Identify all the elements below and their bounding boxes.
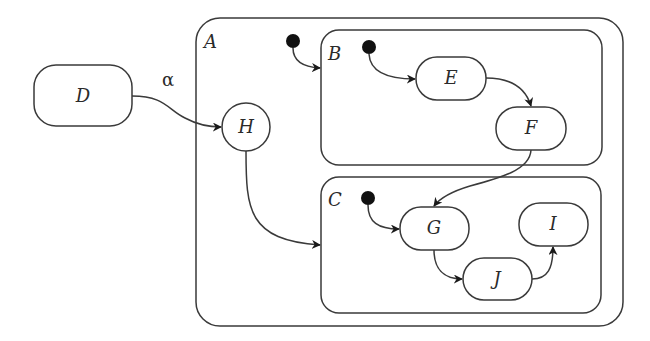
state-G-label: G <box>427 217 441 238</box>
edge-G-to-J <box>434 250 462 279</box>
initial-dot-A <box>286 34 300 48</box>
edge-F-to-G <box>434 150 531 206</box>
state-A: A <box>196 18 623 326</box>
edge-initC-to-G <box>368 205 399 229</box>
state-G: G <box>400 207 469 250</box>
state-E: E <box>416 57 486 100</box>
initial-dot-B <box>362 40 376 54</box>
state-C-label: C <box>328 189 342 210</box>
statechart-diagram: A B C D α H E F G <box>0 0 650 341</box>
state-I-label: I <box>548 213 557 234</box>
state-F-label: F <box>524 117 539 138</box>
state-J: J <box>463 258 532 300</box>
edge-H-to-C <box>246 151 320 245</box>
edge-J-to-I <box>532 247 553 279</box>
state-D-label: D <box>75 85 91 106</box>
state-A-label: A <box>202 31 217 52</box>
state-E-label: E <box>443 67 457 88</box>
state-H-label: H <box>237 116 254 137</box>
initial-dot-C <box>361 191 375 205</box>
state-D: D <box>34 65 132 126</box>
edge-D-to-H <box>132 96 221 127</box>
transition-alpha-label: α <box>162 69 174 90</box>
state-B-label: B <box>327 43 341 64</box>
edge-initA-to-B <box>293 48 320 68</box>
history-state-H: H <box>222 103 270 151</box>
state-F: F <box>496 107 566 150</box>
edge-initB-to-E <box>369 54 415 79</box>
edge-E-to-F <box>486 78 531 106</box>
state-I: I <box>519 203 588 246</box>
